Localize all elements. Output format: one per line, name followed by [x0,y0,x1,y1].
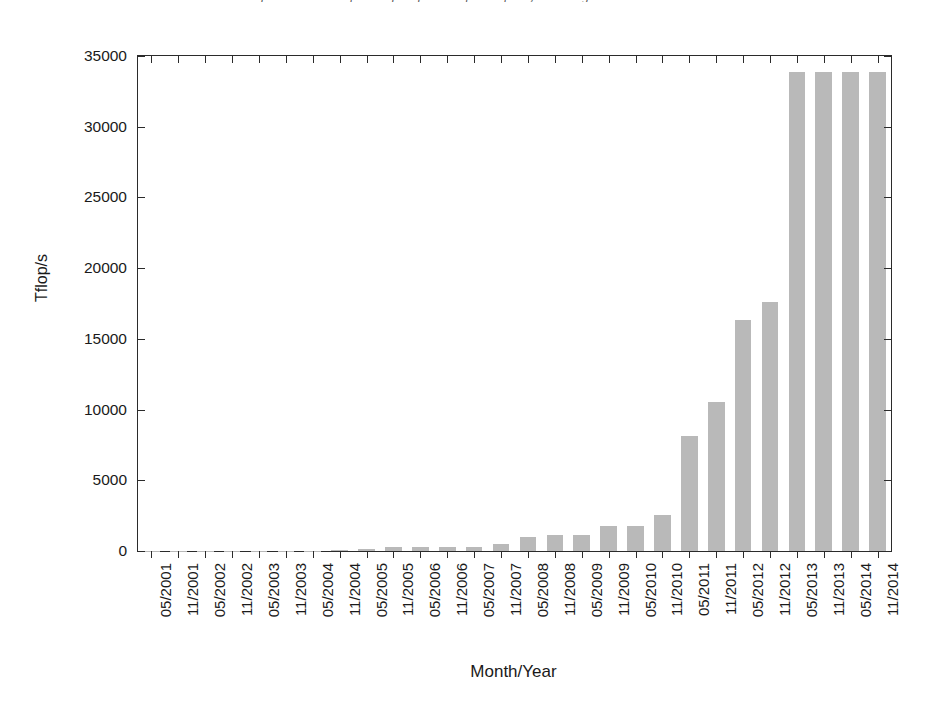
x-axis-tick-top [582,56,583,63]
x-axis-tick-label: 05/2007 [480,563,497,617]
x-axis-tick-top [420,56,421,63]
x-axis-tick-top [743,56,744,63]
x-axis-tick-top [824,56,825,63]
x-axis-tick-label: 11/2007 [507,563,524,616]
x-axis-tick [367,551,368,558]
x-axis-tick [770,551,771,558]
x-axis-tick-label: 05/2013 [803,563,820,617]
x-axis-tick-top [555,56,556,63]
x-axis-tick-top [662,56,663,63]
bar [869,72,886,551]
x-axis-tick [340,551,341,558]
x-axis-title: Month/Year [137,662,890,682]
x-axis-tick-label: 05/2002 [211,563,228,617]
x-axis-tick-label: 11/2012 [776,563,793,616]
x-axis-tick [636,551,637,558]
bar [600,526,617,551]
y-axis-tick-right [884,56,891,57]
bar [547,535,564,551]
y-axis-tick-right [884,268,891,269]
chart-title: Performance Development of the fastest s… [0,0,930,2]
bar [573,535,590,551]
y-axis-tick-right [884,551,891,552]
x-axis-tick-label: 05/2001 [157,563,174,617]
chart-figure: Performance Development of the fastest s… [0,0,930,710]
y-axis-tick-label: 5000 [93,471,127,489]
x-axis-tick [716,551,717,558]
x-axis-tick-top [501,56,502,63]
x-axis-tick-label: 05/2003 [265,563,282,617]
x-axis-tick [528,551,529,558]
x-axis-tick-label: 05/2011 [695,563,712,616]
x-axis-tick [582,551,583,558]
x-axis-tick-label: 05/2014 [857,563,874,617]
x-axis-tick-label: 11/2014 [884,563,901,616]
plot-area: 0500010000150002000025000300003500005/20… [137,55,892,552]
x-axis-tick-top [151,56,152,63]
x-axis-tick-label: 05/2009 [588,563,605,617]
x-axis-tick [151,551,152,558]
bar [627,526,644,551]
y-axis-tick-right [884,197,891,198]
x-axis-tick-top [797,56,798,63]
y-axis-tick-label: 15000 [84,330,127,348]
y-axis-tick-right [884,127,891,128]
x-axis-tick [447,551,448,558]
x-axis-tick-label: 11/2009 [615,563,632,616]
x-axis-tick [743,551,744,558]
x-axis-tick [689,551,690,558]
x-axis-tick [232,551,233,558]
x-axis-tick-top [851,56,852,63]
bar [520,537,537,552]
x-axis-tick-label: 11/2011 [722,563,739,615]
y-axis-tick-label: 10000 [84,401,127,419]
x-axis-tick [609,551,610,558]
x-axis-tick [824,551,825,558]
x-axis-tick-label: 05/2005 [373,563,390,617]
y-axis-tick [138,551,145,552]
x-axis-tick-label: 05/2008 [534,563,551,617]
x-axis-tick [797,551,798,558]
x-axis-tick-label: 11/2008 [561,563,578,616]
x-axis-tick [474,551,475,558]
y-axis-tick [138,410,145,411]
x-axis-tick-top [367,56,368,63]
x-axis-tick [259,551,260,558]
y-axis-tick-label: 0 [118,542,127,560]
x-axis-tick-top [770,56,771,63]
x-axis-tick [205,551,206,558]
x-axis-tick [393,551,394,558]
x-axis-tick [555,551,556,558]
x-axis-tick [286,551,287,558]
x-axis-tick-label: 11/2003 [292,563,309,616]
x-axis-tick-top [178,56,179,63]
x-axis-tick-label: 05/2012 [749,563,766,617]
x-axis-tick-top [340,56,341,63]
y-axis-tick-label: 35000 [84,47,127,65]
bar [815,72,832,551]
x-axis-tick [420,551,421,558]
bar [493,544,510,551]
x-axis-tick-label: 11/2010 [668,563,685,616]
y-axis-tick [138,480,145,481]
x-axis-tick-label: 05/2004 [319,563,336,617]
x-axis-tick-label: 11/2002 [238,563,255,616]
bar [654,515,671,551]
x-axis-tick-label: 05/2006 [426,563,443,617]
x-axis-tick-top [716,56,717,63]
x-axis-tick-label: 05/2010 [642,563,659,617]
bar [681,436,698,551]
x-axis-tick [501,551,502,558]
y-axis-tick [138,197,145,198]
x-axis-tick-top [286,56,287,63]
x-axis-tick-label: 11/2006 [453,563,470,616]
bar [789,72,806,551]
y-axis-title: Tflop/s [33,254,51,302]
x-axis-tick-top [313,56,314,63]
x-axis-tick [878,551,879,558]
x-axis-tick-label: 11/2001 [184,563,201,616]
x-axis-tick [313,551,314,558]
x-axis-tick-top [878,56,879,63]
y-axis-tick-label: 25000 [84,188,127,206]
x-axis-tick-top [609,56,610,63]
